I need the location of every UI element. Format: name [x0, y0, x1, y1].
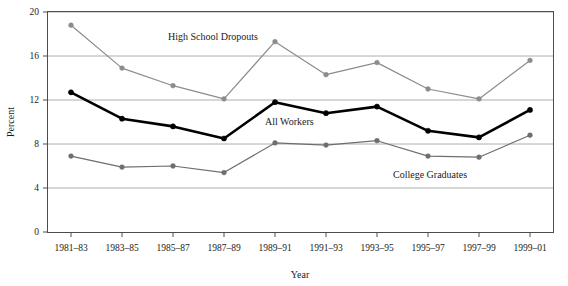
data-point — [528, 58, 533, 63]
x-tick-label: 1991–93 — [309, 243, 343, 253]
y-axis-title: Percent — [5, 107, 16, 137]
series-line — [71, 135, 530, 172]
data-point — [324, 72, 329, 77]
y-tick-label: 12 — [30, 95, 40, 105]
data-point — [323, 111, 328, 116]
data-point — [426, 154, 431, 159]
data-point — [527, 107, 532, 112]
data-point — [120, 66, 125, 71]
x-tick-label: 1997–99 — [462, 243, 496, 253]
x-axis-ticks-group: 1981–831983–851985–871987–891989–911991–… — [54, 232, 547, 253]
series-high-school-dropouts — [69, 23, 533, 102]
data-point — [273, 39, 278, 44]
x-tick-label: 1983–85 — [105, 243, 139, 253]
series-annotation-label: College Graduates — [393, 169, 467, 180]
series-group — [68, 23, 532, 175]
chart-container: 048121620 1981–831983–851985–871987–8919… — [0, 0, 568, 286]
x-tick-label: 1985–87 — [156, 243, 190, 253]
data-point — [273, 141, 278, 146]
data-point — [221, 136, 226, 141]
data-point — [119, 116, 124, 121]
data-point — [272, 100, 277, 105]
x-tick-label: 1999–01 — [513, 243, 547, 253]
y-tick-label: 8 — [34, 139, 39, 149]
series-annotation-label: All Workers — [265, 116, 314, 127]
x-tick-label: 1995–97 — [411, 243, 445, 253]
data-point — [374, 104, 379, 109]
y-tick-label: 4 — [34, 183, 39, 193]
data-point — [375, 138, 380, 143]
series-line — [71, 25, 530, 99]
line-chart: 048121620 1981–831983–851985–871987–8919… — [0, 0, 568, 286]
data-point — [68, 90, 73, 95]
y-tick-label: 16 — [30, 51, 40, 61]
data-point — [425, 128, 430, 133]
data-point — [222, 97, 227, 102]
data-point — [69, 154, 74, 159]
data-point — [171, 83, 176, 88]
data-point — [477, 155, 482, 160]
data-point — [324, 143, 329, 148]
x-axis-title: Year — [291, 269, 310, 280]
data-point — [477, 97, 482, 102]
data-point — [171, 164, 176, 169]
y-tick-label: 20 — [30, 7, 40, 17]
data-point — [476, 135, 481, 140]
x-tick-label: 1981–83 — [54, 243, 88, 253]
series-annotation-label: High School Dropouts — [168, 31, 258, 42]
data-point — [120, 165, 125, 170]
data-point — [69, 23, 74, 28]
annotations-group: High School DropoutsAll WorkersCollege G… — [168, 31, 467, 180]
y-tick-label: 0 — [34, 227, 39, 237]
data-point — [375, 60, 380, 65]
x-tick-label: 1989–91 — [258, 243, 292, 253]
data-point — [222, 170, 227, 175]
y-axis-ticks-group: 048121620 — [30, 7, 49, 237]
data-point — [170, 124, 175, 129]
data-point — [426, 87, 431, 92]
x-tick-label: 1987–89 — [207, 243, 241, 253]
x-tick-label: 1993–95 — [360, 243, 394, 253]
data-point — [528, 133, 533, 138]
